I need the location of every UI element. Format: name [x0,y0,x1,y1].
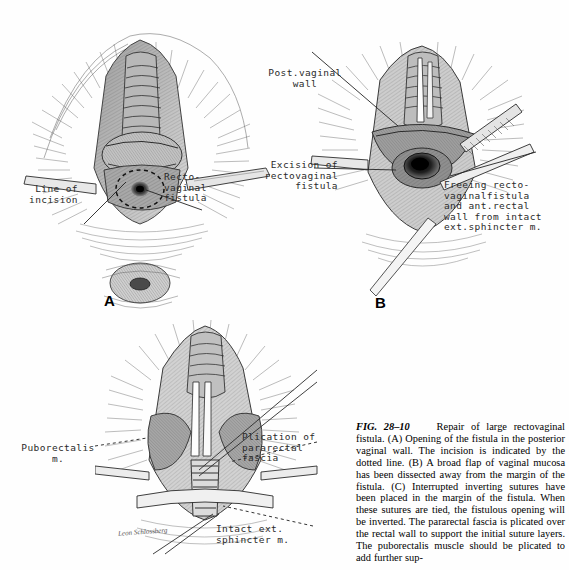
label-intact-ext-sphincter-m: Intact ext. sphincter m. [216,524,289,545]
knife-shaft [370,218,436,296]
label-excision-of-rectovaginal-fistula: Excision of rectovaginal fistula [250,160,338,192]
label-plication-of-pararectal-fascia: Plication of pararectal fascia [242,432,315,464]
retractor-flat-left-c [95,466,149,480]
figure-caption: FIG. 28–10 Repair of large rectovaginal … [356,421,565,564]
illustration-panel-a [20,18,270,318]
label-rectovaginal-fistula: Recto- vaginal fistula [164,172,207,204]
panel-a-drawing [20,18,270,318]
forceps-instrument [460,104,522,154]
suture-ladder [191,460,219,516]
label-line-of-incision: Line of incision [8,184,78,205]
caption-body-c: (C) Interrupted inverting sutures have b… [356,481,565,563]
label-freeing-rectovaginal-fistula: Freeing recto- vaginalfistula and ant.re… [444,180,542,233]
figure-page: Line of incision Recto- vaginal fistula … [0,0,569,570]
panel-letter-b: B [375,294,386,311]
label-puborectalis-m: Puborectalis m. [8,443,108,464]
panel-letter-a: A [104,292,115,309]
label-post-vaginal-wall: Post.vaginal wall [262,68,348,89]
retractor-flat-right-c [261,466,317,480]
figure-number: FIG. 28–10 [356,421,410,432]
